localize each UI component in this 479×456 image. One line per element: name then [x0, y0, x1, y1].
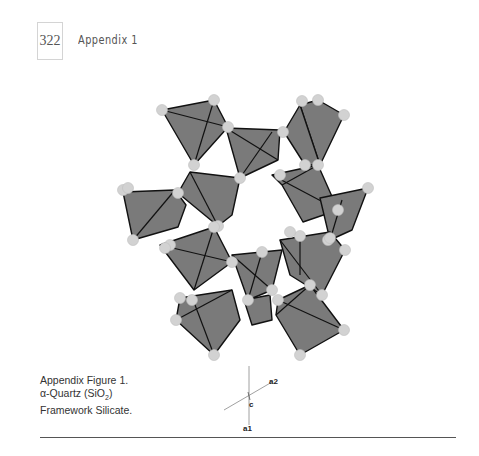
oxygen-atom — [340, 245, 351, 256]
oxygen-atom — [128, 235, 139, 246]
oxygen-atom — [171, 315, 182, 326]
oxygen-atom — [273, 295, 284, 306]
figure-caption: Appendix Figure 1. α-Quartz (SiO2) Frame… — [40, 374, 132, 417]
oxygen-atom — [333, 205, 344, 216]
oxygen-atom — [209, 350, 220, 361]
oxygen-atom — [160, 243, 171, 254]
oxygen-atom — [313, 95, 324, 106]
oxygen-atom — [223, 122, 234, 133]
oxygen-atom — [363, 183, 374, 194]
sio4-tetrahedron — [162, 100, 228, 165]
tetrahedra-layer — [123, 100, 368, 355]
oxygen-atom — [339, 110, 350, 121]
caption-title: Appendix Figure 1. — [40, 374, 132, 387]
oxygen-atom — [235, 173, 246, 184]
oxygen-atom — [189, 160, 200, 171]
oxygen-atom — [339, 325, 350, 336]
oxygen-atom — [157, 105, 168, 116]
oxygen-atom — [300, 160, 311, 171]
oxygen-atom — [325, 233, 336, 244]
sio4-tetrahedron — [276, 285, 344, 355]
oxygen-atom — [175, 293, 186, 304]
axis-label-a1: a1 — [243, 424, 252, 433]
caption-close-paren: ) — [109, 387, 113, 399]
oxygen-atom — [267, 285, 278, 296]
caption-description: Framework Silicate. — [40, 404, 132, 417]
bottom-rule — [40, 437, 456, 438]
caption-mineral: α-Quartz (SiO2) — [40, 387, 132, 404]
sio4-tetrahedron — [176, 290, 240, 355]
oxygen-atom — [275, 170, 286, 181]
axis-label-a2: a2 — [269, 377, 278, 386]
sio4-tetrahedron — [226, 128, 280, 178]
oxygen-atom — [297, 96, 308, 107]
oxygen-atom — [209, 95, 220, 106]
sio4-tetrahedron — [160, 227, 232, 290]
oxygen-atom — [123, 183, 134, 194]
oxygen-atom — [285, 227, 296, 238]
oxygen-atom — [278, 127, 289, 138]
oxygen-atom — [305, 280, 316, 291]
oxygen-atom — [227, 257, 238, 268]
oxygen-atom — [317, 290, 328, 301]
oxygen-atom — [209, 222, 220, 233]
caption-mineral-name: -Quartz (SiO — [46, 387, 105, 399]
oxygen-atom — [243, 295, 254, 306]
oxygen-atom — [173, 188, 184, 199]
axis-label-c: c — [249, 400, 254, 409]
oxygen-atom — [295, 350, 306, 361]
oxygen-atom — [187, 295, 198, 306]
oxygen-atom — [313, 160, 324, 171]
crystal-axes-diagram: a2 c a1 — [224, 366, 278, 433]
axis-a2-line — [224, 382, 272, 410]
oxygen-atom — [295, 231, 306, 242]
oxygen-atom — [257, 247, 268, 258]
sio4-tetrahedron — [178, 172, 240, 226]
